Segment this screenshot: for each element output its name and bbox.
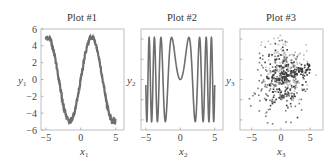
y-tick-label: −4	[26, 108, 37, 119]
panel-3-scatter-points	[249, 35, 317, 125]
x-tick-label: 0	[278, 132, 283, 143]
panel-2-line	[146, 37, 215, 121]
y-tick-label: −2	[26, 91, 37, 102]
panel-3-y-label: y3	[225, 74, 235, 88]
x-tick-label: 5	[212, 132, 217, 143]
x-tick-label: 5	[113, 132, 118, 143]
panel-2: Plot #2 −505 y2 x2	[126, 12, 223, 159]
figure: Plot #1 −6−4−20246 −505 y1 x1 Plot #2 −5…	[0, 0, 336, 164]
x-tick-label: 0	[178, 132, 183, 143]
x-tick-label: −5	[41, 132, 52, 143]
x-tick-label: −5	[246, 132, 257, 143]
panel-1-line	[46, 36, 116, 125]
x-tick-label: 0	[78, 132, 83, 143]
y-tick-label: −6	[26, 125, 37, 136]
panel-1-x-label: x1	[79, 145, 89, 159]
panel-3: Plot #3 −505 y3 x3	[225, 12, 323, 159]
panel-1-y-label: y1	[17, 74, 27, 88]
panel-2-y-label: y2	[126, 74, 136, 88]
x-tick-label: −5	[141, 132, 152, 143]
y-tick-label: 2	[32, 57, 37, 68]
panel-1: Plot #1 −6−4−20246 −505 y1 x1	[17, 12, 124, 159]
panel-2-title: Plot #2	[167, 12, 197, 23]
panel-3-x-label: x3	[276, 145, 286, 159]
panel-3-title: Plot #3	[266, 12, 296, 23]
panel-1-title: Plot #1	[67, 12, 97, 23]
y-tick-label: 6	[32, 24, 37, 35]
y-tick-label: 4	[32, 40, 37, 51]
x-tick-label: 5	[308, 132, 313, 143]
panel-1-frame	[41, 29, 124, 130]
y-tick-label: 0	[32, 74, 37, 85]
panel-2-x-label: x2	[178, 145, 188, 159]
